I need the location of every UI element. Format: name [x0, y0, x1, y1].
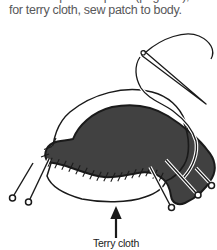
- sewing-diagram: Terry cloth: [0, 0, 217, 250]
- arrow-head-icon: [110, 206, 121, 219]
- pin: [10, 163, 34, 201]
- callout: Terry cloth: [93, 206, 140, 249]
- pin-head: [10, 195, 16, 201]
- pin-head: [26, 199, 32, 205]
- pin-head: [195, 192, 201, 198]
- pin-head: [209, 183, 215, 189]
- pin: [26, 159, 50, 205]
- pin-head: [169, 205, 175, 211]
- thread-upper-loop: [146, 34, 213, 59]
- needle-eye-icon: [141, 51, 145, 55]
- terry-cloth-label: Terry cloth: [93, 237, 140, 249]
